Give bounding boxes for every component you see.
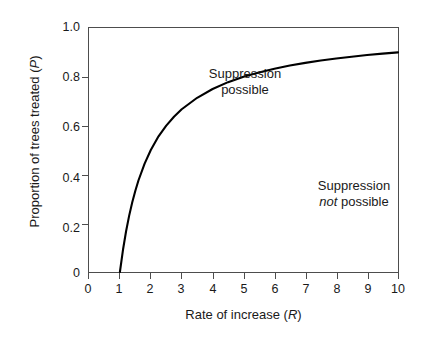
x-tick-mark-3 bbox=[181, 273, 182, 279]
annotation-not-possible-line1: Suppression bbox=[318, 178, 390, 193]
suppression-threshold-curve bbox=[89, 28, 398, 272]
x-tick-label-8: 8 bbox=[322, 283, 352, 296]
x-tick-label-7: 7 bbox=[291, 283, 321, 296]
x-tick-label-10: 10 bbox=[383, 283, 413, 296]
x-tick-label-6: 6 bbox=[260, 283, 290, 296]
y-axis-title-text: Proportion of trees treated bbox=[27, 76, 42, 227]
x-tick-label-0: 0 bbox=[73, 283, 103, 296]
x-tick-mark-2 bbox=[150, 273, 151, 279]
x-tick-label-1: 1 bbox=[104, 283, 134, 296]
y-axis-title-paren-open: ( bbox=[27, 69, 42, 73]
x-tick-label-9: 9 bbox=[353, 283, 383, 296]
x-tick-mark-7 bbox=[306, 273, 307, 279]
x-axis-title-paren-close: ) bbox=[297, 307, 301, 322]
x-tick-mark-5 bbox=[244, 273, 245, 279]
plot-area: Suppression possible Suppression not pos… bbox=[88, 27, 399, 273]
annotation-not-possible-line2: possible bbox=[337, 194, 388, 209]
annotation-possible-line1: Suppression bbox=[209, 66, 281, 81]
y-axis-title: Proportion of trees treated (P) bbox=[27, 12, 42, 272]
y-tick-label-0: 0 bbox=[73, 267, 80, 280]
x-tick-mark-9 bbox=[368, 273, 369, 279]
y-tick-label-0.4: 0.4 bbox=[63, 172, 80, 185]
x-tick-label-5: 5 bbox=[229, 283, 259, 296]
y-axis-title-paren-close: ) bbox=[27, 56, 42, 60]
x-tick-label-2: 2 bbox=[135, 283, 165, 296]
annotation-suppression-possible: Suppression possible bbox=[186, 66, 304, 99]
x-tick-mark-6 bbox=[275, 273, 276, 279]
y-axis-title-symbol: P bbox=[27, 60, 42, 69]
x-tick-mark-1 bbox=[119, 273, 120, 279]
y-tick-label-0.8: 0.8 bbox=[63, 71, 80, 84]
chart-figure: 1.0 0.8 0.6 0.4 0.2 0 0 1 2 3 4 5 6 7 8 … bbox=[0, 0, 428, 337]
x-tick-mark-10 bbox=[398, 273, 399, 279]
annotation-not-possible-italic: not bbox=[319, 194, 337, 209]
annotation-possible-line2: possible bbox=[221, 82, 269, 97]
x-tick-label-4: 4 bbox=[198, 283, 228, 296]
x-tick-mark-4 bbox=[213, 273, 214, 279]
y-tick-label-0.2: 0.2 bbox=[63, 222, 80, 235]
x-tick-mark-0 bbox=[88, 273, 89, 279]
x-tick-mark-8 bbox=[337, 273, 338, 279]
y-tick-label-1.0: 1.0 bbox=[63, 21, 80, 34]
annotation-suppression-not-possible: Suppression not possible bbox=[290, 178, 418, 211]
x-axis-title: Rate of increase (R) bbox=[88, 307, 399, 322]
x-axis-title-text: Rate of increase bbox=[185, 307, 280, 322]
y-tick-label-0.6: 0.6 bbox=[63, 121, 80, 134]
x-axis-title-symbol: R bbox=[288, 307, 297, 322]
x-tick-label-3: 3 bbox=[166, 283, 196, 296]
